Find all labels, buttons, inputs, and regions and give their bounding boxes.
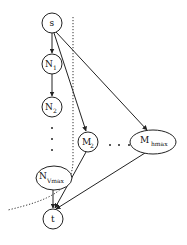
node-m2-subscript: 2 — [90, 142, 94, 149]
node-mhmax-label: M — [140, 135, 149, 145]
node-nvmax-subscript: Vmax — [46, 177, 65, 184]
node-n2-label: N — [45, 102, 53, 112]
node-n1-subscript: 1 — [53, 64, 57, 71]
node-n2: N 2 — [42, 97, 62, 117]
node-nvmax: N Vmax — [36, 166, 72, 190]
node-s: s — [42, 13, 62, 33]
horizontal-ellipsis — [109, 144, 130, 146]
node-n1-label: N — [45, 59, 53, 69]
node-t: t — [43, 209, 63, 229]
node-s-label: s — [50, 18, 55, 28]
node-n1: N 1 — [42, 54, 62, 74]
node-n2-subscript: 2 — [53, 107, 57, 114]
graph-diagram: s N 1 N 2 M 2 M hmax N Vmax — [0, 0, 187, 245]
node-m2: M 2 — [78, 132, 98, 152]
node-mhmax-subscript: hmax — [151, 140, 168, 147]
node-t-label: t — [51, 214, 55, 224]
node-mhmax: M hmax — [130, 130, 176, 154]
vertical-ellipsis — [51, 127, 53, 151]
node-nvmax-label: N — [39, 171, 47, 181]
